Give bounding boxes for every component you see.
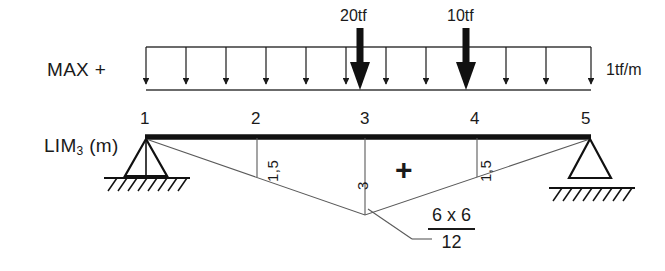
lim-row-label: LIM3 (m) (44, 136, 119, 155)
ordinate-formula-annotation: 6 x 6 12 (428, 205, 475, 252)
node-label-5: 5 (581, 110, 590, 127)
formula-numerator: 6 x 6 (428, 205, 475, 227)
annotation-leader-line (368, 209, 412, 239)
lim-suffix: (m) (89, 135, 118, 156)
influence-line-diagram: MAX + LIM3 (m) 20tf 10tf 1tf/m 1 2 3 4 5… (0, 0, 665, 271)
distributed-load-label: 1tf/m (606, 62, 642, 78)
load-diagram (146, 28, 591, 90)
ordinate-label-node3: 3 (355, 181, 370, 190)
node-label-1: 1 (140, 110, 149, 127)
point-load-label-10tf: 10tf (447, 8, 474, 24)
sign-label-positive: + (395, 155, 413, 185)
lim-subscript: 3 (77, 144, 84, 158)
ground-hatch-node1 (108, 178, 187, 191)
max-row-label: MAX + (47, 60, 106, 79)
ordinate-label-node2: 1,5 (265, 160, 280, 182)
lim-prefix: LIM (44, 135, 77, 156)
point-load-label-20tf: 20tf (340, 8, 367, 24)
node-label-4: 4 (470, 110, 479, 127)
point-load-arrow-20tf (350, 28, 370, 90)
influence-line-envelope (146, 139, 590, 215)
point-load-arrow-10tf (456, 28, 476, 90)
ordinate-label-node4: 1,5 (478, 160, 493, 182)
node-label-3: 3 (360, 110, 369, 127)
ground-hatch-node5 (553, 188, 632, 201)
formula-fraction-bar (428, 228, 475, 230)
formula-denominator: 12 (428, 231, 475, 253)
node-label-2: 2 (251, 110, 260, 127)
